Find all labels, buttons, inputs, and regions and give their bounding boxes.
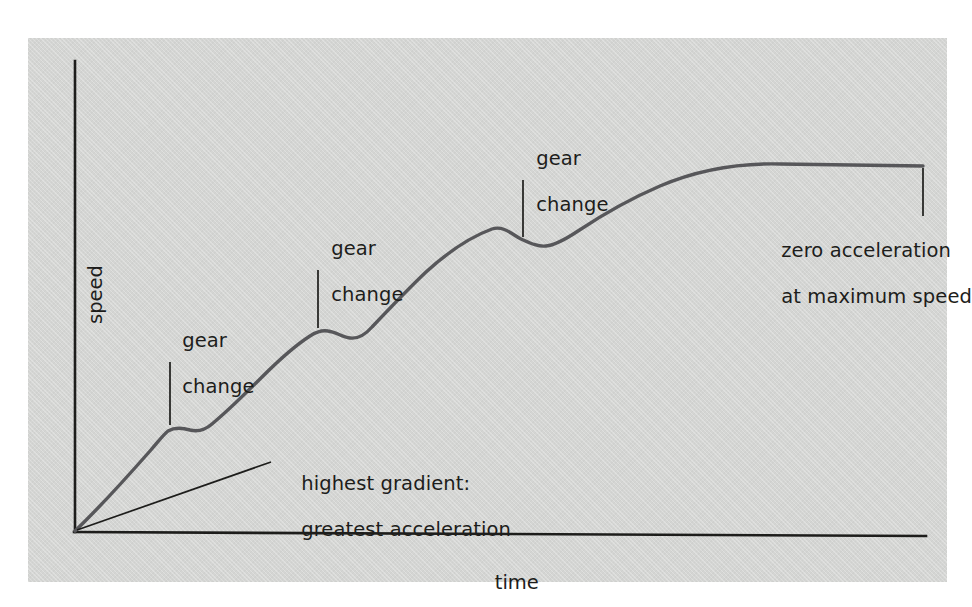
x-axis-label-text: time bbox=[495, 571, 539, 594]
annotation-zero-acceleration-line2: at maximum speed bbox=[781, 285, 972, 308]
annotation-gear-change-1-line2: change bbox=[182, 375, 254, 398]
annotation-gear-change-1-line1: gear bbox=[182, 329, 227, 352]
annotation-zero-acceleration-line1: zero acceleration bbox=[781, 239, 951, 262]
leader-line-highest-gradient bbox=[77, 462, 271, 530]
y-axis-label: speed bbox=[38, 238, 153, 262]
annotation-highest-gradient: highest gradient: greatest acceleration bbox=[276, 449, 511, 564]
annotation-gear-change-3: gear change bbox=[511, 124, 609, 239]
annotation-gear-change-3-line1: gear bbox=[536, 147, 581, 170]
annotation-zero-acceleration: zero acceleration at maximum speed bbox=[756, 216, 972, 331]
annotation-gear-change-2-line2: change bbox=[331, 283, 403, 306]
annotation-gear-change-1: gear change bbox=[157, 306, 255, 421]
y-axis-label-text: speed bbox=[84, 300, 107, 324]
annotation-highest-gradient-line1: highest gradient: bbox=[301, 472, 470, 495]
annotation-gear-change-3-line2: change bbox=[536, 193, 608, 216]
annotation-gear-change-2-line1: gear bbox=[331, 237, 376, 260]
annotation-gear-change-2: gear change bbox=[306, 214, 404, 329]
annotation-highest-gradient-line2: greatest acceleration bbox=[301, 518, 511, 541]
